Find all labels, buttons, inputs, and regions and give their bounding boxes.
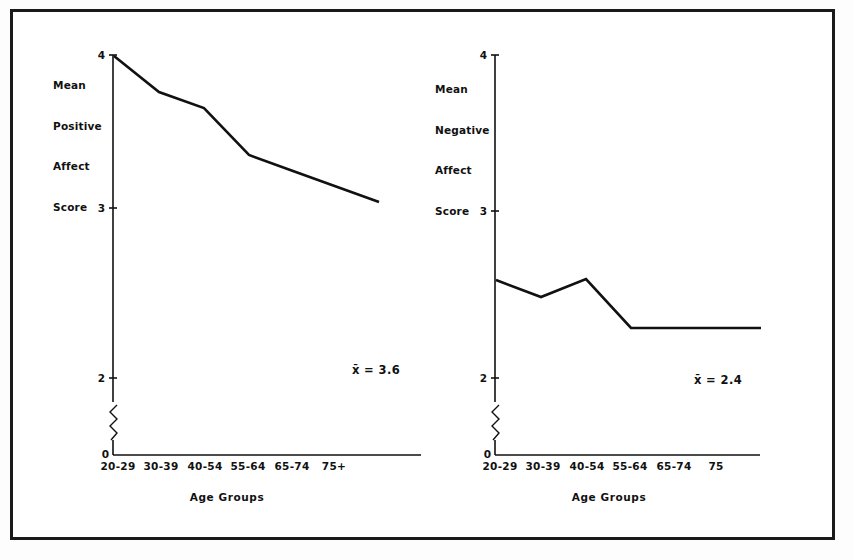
y-tick-label-2-positive: 2	[98, 372, 105, 384]
y-axis-break-icon-negative	[492, 405, 499, 440]
x-axis-title-positive: Age Groups	[190, 491, 265, 503]
y-tick-label-3-negative: 3	[480, 205, 487, 217]
figure-canvas: Mean Positive Affect Score	[0, 0, 854, 560]
y-tick-label-2-negative: 2	[480, 372, 487, 384]
chart-panel-negative-affect: Mean Negative Affect Score 4 3	[413, 12, 833, 537]
x-tick-label-1-negative: 30-39	[525, 460, 560, 472]
x-tick-label-0-positive: 20-29	[100, 460, 135, 472]
plot-area-positive: 4 3 2 0 20-29 30-39 40-54 55-64 65-74 75…	[31, 12, 431, 543]
data-line-negative-affect	[496, 279, 761, 328]
x-tick-label-4-negative: 65-74	[656, 460, 691, 472]
x-tick-label-2-negative: 40-54	[569, 460, 604, 472]
x-tick-label-1-positive: 30-39	[143, 460, 178, 472]
plot-area-negative: 4 3 2 0 20-29 30-39 40-54 55-64 65-74 75…	[413, 12, 833, 543]
mean-annotation-positive: x̄ = 3.6	[352, 363, 400, 377]
x-tick-label-5-positive: 75+	[322, 460, 346, 472]
y-tick-label-4-positive: 4	[98, 49, 105, 61]
y-tick-label-4-negative: 4	[480, 49, 487, 61]
y-axis-break-icon-positive	[110, 405, 117, 440]
x-tick-label-3-positive: 55-64	[230, 460, 265, 472]
chart-panel-positive-affect: Mean Positive Affect Score	[31, 12, 431, 537]
data-line-positive-affect	[114, 56, 379, 202]
x-tick-label-2-positive: 40-54	[187, 460, 222, 472]
y-tick-label-3-positive: 3	[98, 202, 105, 214]
x-tick-label-0-negative: 20-29	[482, 460, 517, 472]
y-tick-label-0-negative: 0	[484, 448, 491, 460]
figure-border-frame: Mean Positive Affect Score	[10, 9, 835, 540]
mean-annotation-negative: x̄ = 2.4	[694, 373, 742, 387]
x-tick-label-4-positive: 65-74	[274, 460, 309, 472]
x-tick-label-5-negative: 75	[708, 460, 723, 472]
x-tick-label-3-negative: 55-64	[612, 460, 647, 472]
y-tick-label-0-positive: 0	[102, 448, 109, 460]
x-axis-title-negative: Age Groups	[572, 491, 647, 503]
